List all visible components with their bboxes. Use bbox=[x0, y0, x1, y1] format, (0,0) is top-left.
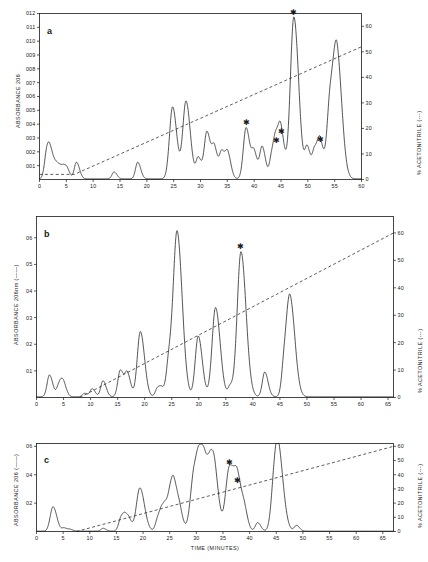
panel-c-trace bbox=[37, 444, 394, 532]
x-tick-label: 10 bbox=[87, 535, 93, 541]
panel-c-label: c bbox=[44, 455, 49, 465]
panel-b-frame bbox=[37, 217, 394, 398]
y2-tick-label: 60 bbox=[398, 443, 404, 449]
x-tick-label: 30 bbox=[196, 401, 202, 407]
x-tick-label: 60 bbox=[358, 183, 364, 189]
x-tick-label: 40 bbox=[250, 401, 256, 407]
x-tick-label: 5 bbox=[62, 401, 65, 407]
y-tick-label: 003 bbox=[26, 135, 36, 141]
x-tick-label: 30 bbox=[197, 183, 203, 189]
panel-a-y-ticks: 001002003004005006007008009010011012 bbox=[26, 10, 40, 168]
y2-tick-label: 20 bbox=[398, 340, 404, 346]
x-tick-label: 20 bbox=[140, 535, 146, 541]
x-tick-label: 15 bbox=[117, 183, 123, 189]
panel-b-plot: 010203040506 0102030405060 0510152025303… bbox=[0, 195, 428, 423]
panel-a-x-ticks: 051015202530354045505560 bbox=[38, 180, 365, 190]
peak-star-marker: ✱ bbox=[243, 118, 250, 127]
panel-a-plot: 001002003004005006007008009010011012 010… bbox=[0, 0, 428, 195]
y-tick-label: 05 bbox=[26, 261, 32, 267]
y-tick-label: 001 bbox=[26, 163, 36, 169]
y2-tick-label: 30 bbox=[366, 100, 372, 106]
x-tick-label: 15 bbox=[113, 535, 119, 541]
y2-tick-label: 20 bbox=[366, 125, 372, 131]
y2-tick-label: 50 bbox=[398, 257, 404, 263]
y-tick-label: 011 bbox=[26, 24, 35, 30]
y-tick-label: 006 bbox=[26, 93, 36, 99]
y-tick-label: 010 bbox=[26, 38, 36, 44]
y-tick-label: 03 bbox=[26, 315, 32, 321]
panel-a: 001002003004005006007008009010011012 010… bbox=[0, 0, 428, 195]
x-tick-label: 35 bbox=[223, 401, 229, 407]
x-tick-label: 25 bbox=[169, 401, 175, 407]
x-tick-label: 60 bbox=[353, 535, 359, 541]
y-tick-label: 02 bbox=[26, 500, 32, 506]
y-tick-label: 04 bbox=[26, 288, 32, 294]
panel-a-trace bbox=[40, 17, 362, 179]
x-tick-label: 0 bbox=[38, 183, 41, 189]
y2-tick-label: 10 bbox=[366, 151, 372, 157]
panel-c: 020406 0102030405060 0510152025303540455… bbox=[0, 423, 428, 562]
x-tick-label: 0 bbox=[35, 535, 38, 541]
y2-tick-label: 60 bbox=[366, 23, 372, 29]
y-tick-label: 02 bbox=[26, 341, 32, 347]
peak-star-marker: ✱ bbox=[226, 458, 233, 467]
panel-b-y2-ticks: 0102030405060 bbox=[394, 230, 404, 401]
x-tick-label: 65 bbox=[380, 535, 386, 541]
x-tick-label: 50 bbox=[305, 183, 311, 189]
x-tick-label: 10 bbox=[87, 401, 93, 407]
panel-a-y2-ticks: 0102030405060 bbox=[362, 23, 372, 182]
x-tick-label: 40 bbox=[251, 183, 257, 189]
y2-tick-label: 0 bbox=[366, 176, 369, 182]
x-tick-label: 45 bbox=[273, 535, 279, 541]
panel-c-gradient-line bbox=[76, 446, 393, 531]
y2-tick-label: 60 bbox=[398, 230, 404, 236]
x-tick-label: 20 bbox=[141, 401, 147, 407]
peak-star-marker: ✱ bbox=[290, 8, 297, 17]
x-tick-label: 45 bbox=[278, 183, 284, 189]
y-tick-label: 009 bbox=[26, 52, 36, 58]
y-tick-label: 06 bbox=[26, 235, 32, 241]
x-tick-label: 65 bbox=[385, 401, 391, 407]
y2-tick-label: 30 bbox=[398, 486, 404, 492]
x-tick-label: 45 bbox=[277, 401, 283, 407]
x-tick-label: 25 bbox=[167, 535, 173, 541]
y-tick-label: 007 bbox=[26, 80, 36, 86]
panel-c-plot: 020406 0102030405060 0510152025303540455… bbox=[0, 423, 428, 562]
panel-b-label: b bbox=[44, 229, 50, 239]
y2-tick-label: 50 bbox=[398, 457, 404, 463]
y2-tick-label: 10 bbox=[398, 514, 404, 520]
y2-tick-label: 40 bbox=[398, 285, 404, 291]
panel-c-y2-axis-title: % ACETONITRILE (---) bbox=[417, 463, 423, 528]
panel-b-star-markers: ✱ bbox=[237, 242, 244, 251]
panel-c-frame bbox=[37, 444, 394, 532]
panel-b-trace bbox=[37, 231, 394, 397]
x-tick-label: 50 bbox=[300, 535, 306, 541]
panel-a-star-markers: ✱✱✱✱✱ bbox=[243, 8, 324, 146]
x-tick-label: 5 bbox=[62, 535, 65, 541]
y2-tick-label: 40 bbox=[398, 472, 404, 478]
panel-b-y2-axis-title: % ACETONITRILE (---) bbox=[417, 328, 423, 393]
y2-tick-label: 30 bbox=[398, 312, 404, 318]
panel-a-y2-axis-title: % ACETONITRILE (---) bbox=[416, 110, 422, 175]
peak-star-marker: ✱ bbox=[237, 242, 244, 251]
x-tick-label: 50 bbox=[304, 401, 310, 407]
chromatogram-figure: 001002003004005006007008009010011012 010… bbox=[0, 0, 428, 562]
y2-tick-label: 0 bbox=[398, 394, 401, 400]
x-tick-label: 25 bbox=[170, 183, 176, 189]
x-tick-label: 10 bbox=[90, 183, 96, 189]
panel-a-gradient-line bbox=[40, 47, 362, 175]
panel-c-y-ticks: 020406 bbox=[26, 443, 36, 506]
x-tick-label: 30 bbox=[193, 535, 199, 541]
y2-tick-label: 20 bbox=[398, 500, 404, 506]
x-tick-label: 35 bbox=[220, 535, 226, 541]
panel-c-y2-ticks: 0102030405060 bbox=[394, 443, 404, 534]
peak-star-marker: ✱ bbox=[317, 135, 324, 144]
x-tick-label: 55 bbox=[326, 535, 332, 541]
x-axis-title: TIME (MINUTES) bbox=[191, 545, 240, 551]
panel-c-y-axis-title: ABSORBANCE 206 (——) bbox=[13, 454, 19, 526]
x-tick-label: 60 bbox=[358, 401, 364, 407]
x-tick-label: 0 bbox=[35, 401, 38, 407]
y2-tick-label: 50 bbox=[366, 49, 372, 55]
y2-tick-label: 0 bbox=[398, 528, 401, 534]
y-tick-label: 04 bbox=[26, 472, 32, 478]
